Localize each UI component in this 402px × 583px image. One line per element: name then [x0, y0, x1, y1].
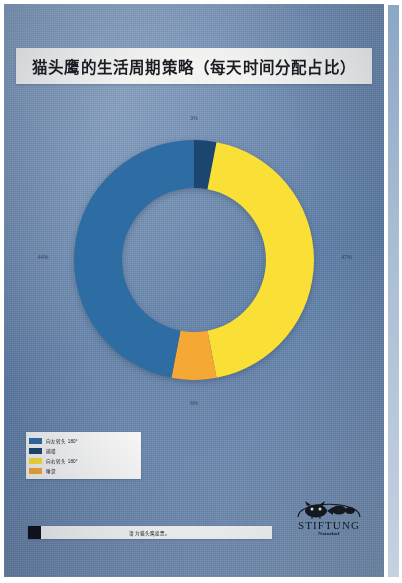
- legend-item-turn-left[interactable]: 向左转头 180°: [29, 436, 137, 445]
- donut-label-turn-right: 47%: [341, 254, 352, 260]
- brand-subtitle: Naturhof: [292, 531, 366, 537]
- page-title: 猫头鹰的生活周期策略（每天时间分配占比）: [32, 55, 356, 77]
- owl-logo-icon: [292, 493, 366, 519]
- page-left-edge: [0, 0, 4, 583]
- footer-caption-bar: 请为猫头鹰投票。: [28, 526, 272, 539]
- legend-swatch-turn-left: [29, 438, 42, 444]
- donut-slice-turn-left[interactable]: [74, 140, 194, 378]
- chart-legend: 向左转头 180° 捕猎 向右转头 180° 睡觉: [26, 432, 141, 479]
- page-top-edge: [0, 0, 402, 4]
- brand-name: STIFTUNG: [292, 520, 366, 531]
- donut-label-turn-left: 44%: [38, 254, 49, 260]
- poster-photo: 猫头鹰的生活周期策略（每天时间分配占比） 3%: [0, 0, 402, 583]
- donut-chart: 3% 47% 6% 44%: [4, 124, 384, 424]
- donut-chart-graphic: 3% 47% 6% 44%: [58, 124, 330, 396]
- legend-label-sleeping: 睡觉: [46, 468, 56, 474]
- legend-swatch-turn-right: [29, 458, 42, 464]
- donut-label-hunting: 3%: [190, 115, 198, 121]
- legend-label-turn-left: 向左转头 180°: [46, 438, 78, 444]
- footer-caption-text: 请为猫头鹰投票。: [28, 530, 272, 536]
- legend-swatch-hunting: [29, 448, 42, 454]
- legend-item-hunting[interactable]: 捕猎: [29, 446, 137, 455]
- donut-svg: [58, 124, 330, 396]
- legend-item-sleeping[interactable]: 睡觉: [29, 466, 137, 475]
- legend-item-turn-right[interactable]: 向右转头 180°: [29, 456, 137, 465]
- legend-label-turn-right: 向右转头 180°: [46, 458, 78, 464]
- poster-board: 猫头鹰的生活周期策略（每天时间分配占比） 3%: [4, 4, 384, 577]
- donut-label-sleeping: 6%: [190, 400, 198, 406]
- right-page-strip-inner: [388, 5, 399, 578]
- brand-logo: STIFTUNG Naturhof: [292, 493, 366, 541]
- legend-swatch-sleeping: [29, 468, 42, 474]
- footer-black-square: [28, 526, 41, 539]
- donut-slice-turn-right[interactable]: [208, 142, 314, 378]
- page-bottom-edge: [0, 577, 402, 583]
- legend-label-hunting: 捕猎: [46, 448, 56, 454]
- poster-title-band: 猫头鹰的生活周期策略（每天时间分配占比）: [16, 48, 372, 84]
